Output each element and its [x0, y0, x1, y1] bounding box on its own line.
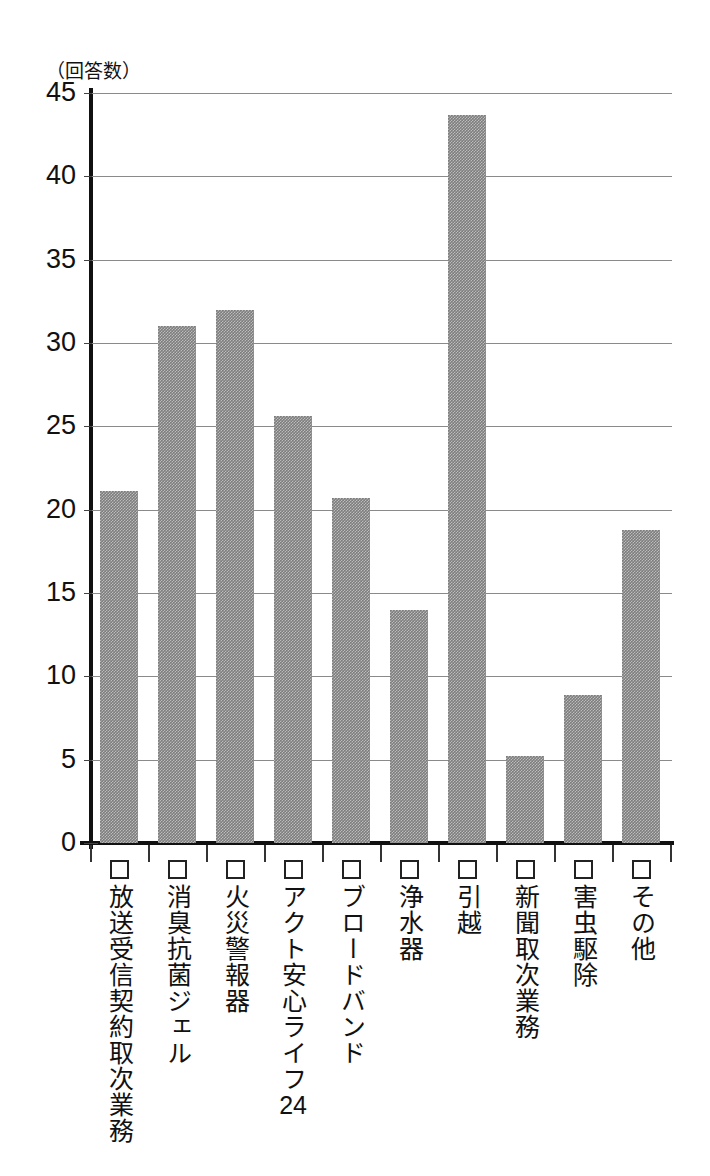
- x-axis-tick-mark: [148, 845, 150, 862]
- x-axis-category-label: ブロードバンド: [328, 860, 374, 1066]
- checkbox-empty-icon: [458, 860, 477, 879]
- y-axis-tick-label: 10: [12, 662, 76, 689]
- y-axis-tick-label: 35: [12, 246, 76, 273]
- bar: [158, 326, 196, 843]
- plot-area: [92, 93, 672, 843]
- gridline: [92, 260, 672, 261]
- bar: [390, 610, 428, 843]
- checkbox-empty-icon: [632, 860, 651, 879]
- checkbox-empty-icon: [342, 860, 361, 879]
- bar: [216, 310, 254, 843]
- x-axis-category-text: 引越: [454, 884, 481, 936]
- x-axis-tick-mark: [670, 845, 672, 862]
- x-axis-category-text: 新聞取次業務: [512, 884, 539, 1040]
- checkbox-empty-icon: [400, 860, 419, 879]
- x-axis-category-text: 消臭抗菌ジェル: [164, 884, 191, 1066]
- y-axis-tick-label: 40: [12, 162, 76, 189]
- checkbox-empty-icon: [168, 860, 187, 879]
- x-axis-tick-mark: [438, 845, 440, 862]
- x-axis-tick-mark: [322, 845, 324, 862]
- x-axis-category-label: 消臭抗菌ジェル: [154, 860, 200, 1066]
- x-axis-category-text: 害虫駆除: [570, 884, 597, 988]
- x-axis-tick-mark: [264, 845, 266, 862]
- x-axis-category-label: 害虫駆除: [560, 860, 606, 988]
- x-axis-category-text: 放送受信契約取次業務: [106, 884, 133, 1144]
- checkbox-empty-icon: [226, 860, 245, 879]
- gridline: [92, 176, 672, 177]
- y-axis-tick-label: 5: [12, 746, 76, 773]
- gridline: [92, 93, 672, 94]
- x-axis-tick-mark: [496, 845, 498, 862]
- y-axis-tick-label: 0: [12, 829, 76, 856]
- x-axis-category-label: その他: [618, 860, 664, 962]
- x-axis-category-label: 放送受信契約取次業務: [96, 860, 142, 1144]
- bar: [274, 416, 312, 843]
- checkbox-empty-icon: [284, 860, 303, 879]
- bar: [332, 498, 370, 843]
- x-axis-category-label: アクト安心ライフ24: [270, 860, 316, 1119]
- bar-chart: （回答数） 454035302520151050 放送受信契約取次業務消臭抗菌ジ…: [0, 0, 710, 1176]
- bar: [564, 695, 602, 843]
- x-axis-category-label: 火災警報器: [212, 860, 258, 1014]
- x-axis-tick-mark: [554, 845, 556, 862]
- bar: [622, 530, 660, 843]
- x-axis-category-text: 火災警報器: [222, 884, 249, 1014]
- y-axis-tick-mark: [84, 843, 98, 844]
- x-axis-tick-mark: [90, 845, 92, 862]
- x-axis-category-label: 浄水器: [386, 860, 432, 962]
- y-axis-tick-label: 20: [12, 496, 76, 523]
- checkbox-empty-icon: [110, 860, 129, 879]
- x-axis-category-text: アクト安心ライフ24: [279, 884, 307, 1119]
- bar: [100, 491, 138, 843]
- x-axis-tick-mark: [380, 845, 382, 862]
- y-axis-tick-label: 15: [12, 579, 76, 606]
- x-axis-category-label: 新聞取次業務: [502, 860, 548, 1040]
- x-axis-category-text: 浄水器: [396, 884, 423, 962]
- x-axis-tick-mark: [612, 845, 614, 862]
- y-axis-tick-label: 45: [12, 79, 76, 106]
- x-axis-tick-mark: [206, 845, 208, 862]
- checkbox-empty-icon: [574, 860, 593, 879]
- y-axis-tick-label: 25: [12, 412, 76, 439]
- bar: [506, 756, 544, 843]
- x-axis-category-text: その他: [628, 884, 655, 962]
- checkbox-empty-icon: [516, 860, 535, 879]
- x-axis-category-text: ブロードバンド: [338, 884, 365, 1066]
- x-axis-category-label: 引越: [444, 860, 490, 936]
- y-axis-tick-label: 30: [12, 329, 76, 356]
- bar: [448, 115, 486, 843]
